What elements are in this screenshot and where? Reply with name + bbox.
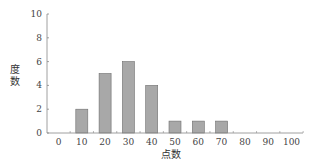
y-tick-label: 4 (36, 80, 42, 90)
x-tick-label: 60 (193, 137, 205, 147)
x-tick-label: 0 (56, 137, 62, 147)
x-tick-label: 100 (283, 137, 300, 147)
y-tick-label: 6 (36, 57, 42, 67)
bar-20 (99, 74, 111, 134)
y-tick-label: 0 (36, 128, 42, 138)
x-axis-label: 点数 (161, 148, 181, 160)
x-tick-label: 20 (99, 137, 111, 147)
bars (76, 62, 228, 133)
bar-40 (146, 85, 158, 133)
y-tick-label: 8 (36, 33, 42, 43)
histogram-chart: 0246810 0102030405060708090100 度 数 点数 (0, 0, 311, 168)
x-tick-label: 80 (239, 137, 251, 147)
x-tick-label: 70 (216, 137, 228, 147)
x-tick-label: 50 (169, 137, 181, 147)
x-axis: 0102030405060708090100 (47, 131, 303, 147)
y-tick-label: 10 (31, 9, 43, 19)
bar-50 (169, 121, 181, 133)
bar-10 (76, 109, 88, 133)
bar-30 (122, 62, 134, 133)
y-axis-label: 数 (10, 75, 20, 87)
x-tick-label: 30 (123, 137, 135, 147)
x-tick-label: 10 (76, 137, 88, 147)
y-tick-label: 2 (36, 104, 42, 114)
x-tick-label: 90 (262, 137, 274, 147)
bar-70 (216, 121, 228, 133)
y-axis: 0246810 (31, 9, 49, 138)
x-tick-label: 40 (146, 137, 158, 147)
y-axis-label: 度 (10, 63, 20, 75)
bar-60 (192, 121, 204, 133)
